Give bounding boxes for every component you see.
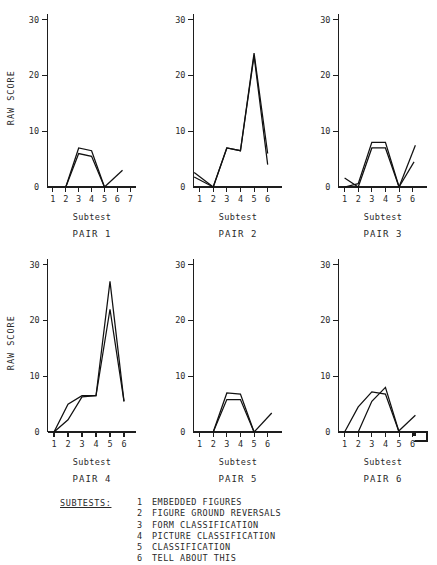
legend-item: 2FIGURE GROUND REVERSALS bbox=[137, 508, 281, 519]
y-axis-title: RAW SCORE bbox=[6, 315, 16, 370]
y-tick-label: 30 bbox=[29, 260, 39, 270]
x-tick-label: 2 bbox=[65, 439, 70, 449]
legend-item: 4PICTURE CLASSIFICATION bbox=[137, 531, 281, 542]
legend-item: 1EMBEDDED FIGURES bbox=[137, 497, 281, 508]
x-tick-label: 6 bbox=[265, 194, 270, 204]
y-tick-label: 30 bbox=[29, 15, 39, 25]
y-tick-label: 20 bbox=[29, 315, 39, 325]
panel-grid: 01020301234567SubtestPAIR 1RAW SCORE0102… bbox=[0, 0, 437, 490]
y-tick-label: 10 bbox=[175, 126, 185, 136]
x-tick-label: 6 bbox=[115, 194, 120, 204]
scan-artifact-mark bbox=[413, 431, 428, 442]
x-tick-label: 3 bbox=[224, 194, 229, 204]
x-tick-label: 1 bbox=[51, 439, 56, 449]
x-tick-label: 3 bbox=[224, 439, 229, 449]
y-tick-label: 0 bbox=[180, 427, 185, 437]
y-axis-title: RAW SCORE bbox=[6, 70, 16, 125]
x-tick-label: 4 bbox=[93, 439, 98, 449]
x-tick-label: 1 bbox=[50, 194, 55, 204]
chart-panel-2: 0102030123456SubtestPAIR 2 bbox=[146, 0, 291, 245]
panel-caption: PAIR 2 bbox=[218, 229, 257, 239]
x-tick-label: 5 bbox=[102, 194, 107, 204]
legend-item: 6TELL ABOUT THIS bbox=[137, 553, 281, 564]
y-tick-label: 20 bbox=[320, 315, 330, 325]
x-tick-label: 7 bbox=[128, 194, 133, 204]
x-tick-label: 1 bbox=[342, 439, 347, 449]
chart-panel-3: 0102030123456SubtestPAIR 3 bbox=[291, 0, 436, 245]
legend-item-label: PICTURE CLASSIFICATION bbox=[152, 531, 276, 541]
series-line bbox=[213, 393, 254, 432]
x-tick-label: 4 bbox=[383, 194, 388, 204]
x-tick-label: 4 bbox=[238, 439, 243, 449]
panel-caption: PAIR 6 bbox=[363, 474, 402, 484]
legend-heading: SUBTESTS: bbox=[60, 498, 111, 508]
y-tick-label: 0 bbox=[35, 427, 40, 437]
x-axis-title: Subtest bbox=[364, 457, 403, 467]
series-line bbox=[213, 56, 267, 187]
series-line bbox=[194, 177, 213, 187]
series-line bbox=[358, 387, 399, 432]
legend-item-label: FIGURE GROUND REVERSALS bbox=[152, 508, 281, 518]
series-line bbox=[345, 392, 399, 432]
y-tick-label: 20 bbox=[175, 315, 185, 325]
x-tick-label: 5 bbox=[251, 194, 256, 204]
series-line bbox=[254, 413, 272, 432]
x-tick-label: 3 bbox=[369, 439, 374, 449]
y-tick-label: 10 bbox=[29, 126, 39, 136]
y-tick-label: 20 bbox=[320, 70, 330, 80]
panel-caption: PAIR 4 bbox=[72, 474, 111, 484]
y-tick-label: 0 bbox=[325, 182, 330, 192]
x-tick-label: 5 bbox=[107, 439, 112, 449]
y-tick-label: 30 bbox=[320, 260, 330, 270]
legend-item-number: 2 bbox=[137, 508, 152, 518]
x-axis-title: Subtest bbox=[219, 457, 258, 467]
y-tick-label: 10 bbox=[320, 371, 330, 381]
series-line bbox=[213, 53, 267, 187]
legend-item-label: FORM CLASSIFICATION bbox=[152, 520, 259, 530]
y-tick-label: 0 bbox=[34, 182, 39, 192]
legend-item-label: TELL ABOUT THIS bbox=[152, 553, 236, 563]
x-axis-title: Subtest bbox=[364, 212, 403, 222]
series-line bbox=[54, 309, 124, 432]
legend-item: 5CLASSIFICATION bbox=[137, 542, 281, 553]
panel-caption: PAIR 3 bbox=[363, 229, 402, 239]
x-tick-label: 4 bbox=[89, 194, 94, 204]
series-line bbox=[66, 148, 105, 187]
x-tick-label: 2 bbox=[63, 194, 68, 204]
legend-item-number: 3 bbox=[137, 520, 152, 530]
series-line bbox=[399, 162, 414, 187]
x-tick-label: 5 bbox=[251, 439, 256, 449]
y-tick-label: 30 bbox=[175, 260, 185, 270]
legend-item-number: 4 bbox=[137, 531, 152, 541]
chart-panel-6: 0102030123456SubtestPAIR 6 bbox=[291, 245, 436, 490]
x-tick-label: 5 bbox=[396, 194, 401, 204]
chart-panel-1: 01020301234567SubtestPAIR 1RAW SCORE bbox=[0, 0, 145, 245]
x-tick-label: 2 bbox=[211, 194, 216, 204]
y-tick-label: 30 bbox=[175, 15, 185, 25]
y-tick-label: 20 bbox=[175, 70, 185, 80]
legend-item-number: 1 bbox=[137, 497, 152, 507]
x-tick-label: 5 bbox=[396, 439, 401, 449]
x-tick-label: 1 bbox=[197, 194, 202, 204]
series-line bbox=[399, 145, 415, 187]
x-axis-title: Subtest bbox=[219, 212, 258, 222]
x-tick-label: 3 bbox=[79, 439, 84, 449]
y-tick-label: 20 bbox=[29, 70, 39, 80]
legend-item: 3FORM CLASSIFICATION bbox=[137, 520, 281, 531]
x-tick-label: 1 bbox=[197, 439, 202, 449]
y-tick-label: 10 bbox=[320, 126, 330, 136]
x-axis-title: Subtest bbox=[73, 457, 112, 467]
x-tick-label: 2 bbox=[356, 194, 361, 204]
y-tick-label: 0 bbox=[325, 427, 330, 437]
legend-item-label: CLASSIFICATION bbox=[152, 542, 231, 552]
y-tick-label: 30 bbox=[320, 15, 330, 25]
series-line bbox=[398, 415, 416, 432]
x-tick-label: 3 bbox=[369, 194, 374, 204]
legend-item-number: 6 bbox=[137, 553, 152, 563]
series-line bbox=[54, 281, 124, 432]
x-tick-label: 2 bbox=[356, 439, 361, 449]
legend-item-list: 1EMBEDDED FIGURES2FIGURE GROUND REVERSAL… bbox=[137, 497, 281, 565]
y-tick-label: 0 bbox=[180, 182, 185, 192]
panel-caption: PAIR 5 bbox=[218, 474, 257, 484]
